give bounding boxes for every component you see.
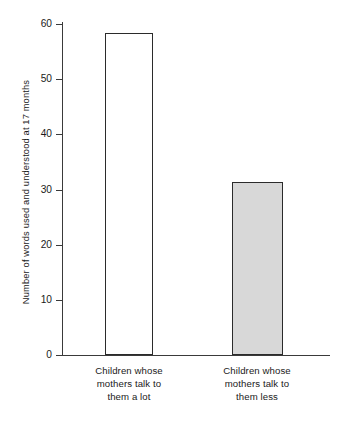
x-category-label-1: Children whosemothers talk tothem a lot: [62, 364, 196, 404]
y-tick-mark: [56, 355, 62, 356]
y-tick-label: 50: [12, 74, 52, 84]
x-category-line: Children whose: [62, 364, 196, 377]
x-category-line: them less: [190, 390, 324, 403]
bar-chart: Number of words used and understood at 1…: [0, 0, 340, 421]
y-tick-label: 30: [12, 185, 52, 195]
x-category-line: them a lot: [62, 390, 196, 403]
y-tick-label: 40: [12, 129, 52, 139]
x-category-line: mothers talk to: [62, 377, 196, 390]
bar-1: [105, 33, 153, 355]
y-tick-label: 60: [12, 19, 52, 29]
x-axis-line: [62, 355, 330, 356]
y-tick-label: 20: [12, 240, 52, 250]
x-category-label-2: Children whosemothers talk tothem less: [190, 364, 324, 404]
y-tick-label: 0: [12, 350, 52, 360]
y-tick-label: 10: [12, 295, 52, 305]
x-category-line: Children whose: [190, 364, 324, 377]
plot-area: [62, 24, 334, 355]
bar-2: [232, 182, 283, 355]
x-category-line: mothers talk to: [190, 377, 324, 390]
